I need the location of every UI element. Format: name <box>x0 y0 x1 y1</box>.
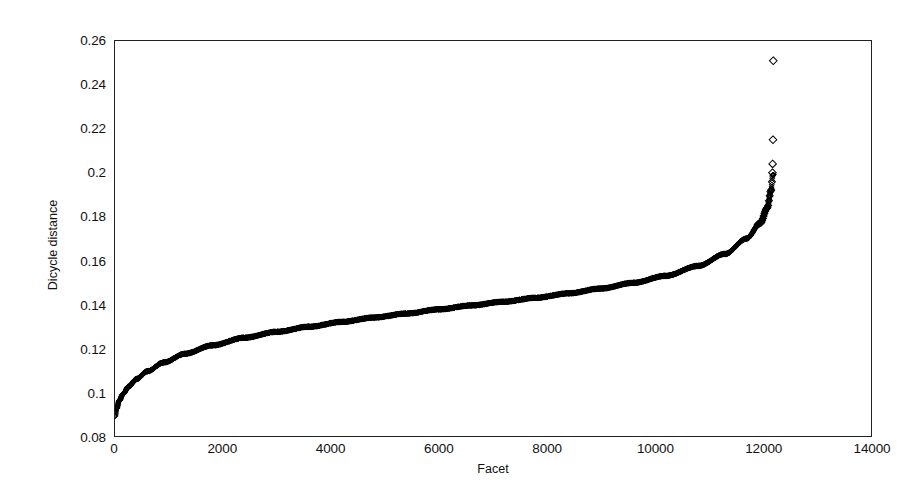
marker-band <box>115 172 776 419</box>
x-tick-label: 4000 <box>316 441 346 456</box>
x-tick-label: 0 <box>110 441 117 456</box>
y-tick-label: 0.2 <box>32 165 106 180</box>
y-tick-label: 0.14 <box>32 297 106 312</box>
y-tick-label: 0.24 <box>32 77 106 92</box>
x-tick-label: 8000 <box>532 441 562 456</box>
outlier-marker <box>769 57 777 65</box>
y-tick-label: 0.18 <box>32 209 106 224</box>
y-tick-label: 0.26 <box>32 33 106 48</box>
x-tick-label: 12000 <box>745 441 782 456</box>
chart-figure: Dicycle distance 0.080.10.120.140.160.18… <box>0 0 903 490</box>
x-tick-label: 10000 <box>637 441 674 456</box>
y-tick-label: 0.1 <box>32 385 106 400</box>
plot-area <box>114 40 872 437</box>
data-series-dicycle-distance <box>115 41 871 436</box>
y-tick-label: 0.12 <box>32 341 106 356</box>
x-tick-label: 6000 <box>424 441 454 456</box>
x-axis-title: Facet <box>477 462 508 476</box>
outlier-marker <box>769 136 777 144</box>
y-tick-label: 0.16 <box>32 253 106 268</box>
x-tick-label: 14000 <box>853 441 890 456</box>
y-tick-label: 0.22 <box>32 121 106 136</box>
outlier-marker <box>769 160 777 168</box>
y-tick-label: 0.08 <box>32 430 106 445</box>
x-tick-label: 2000 <box>207 441 237 456</box>
